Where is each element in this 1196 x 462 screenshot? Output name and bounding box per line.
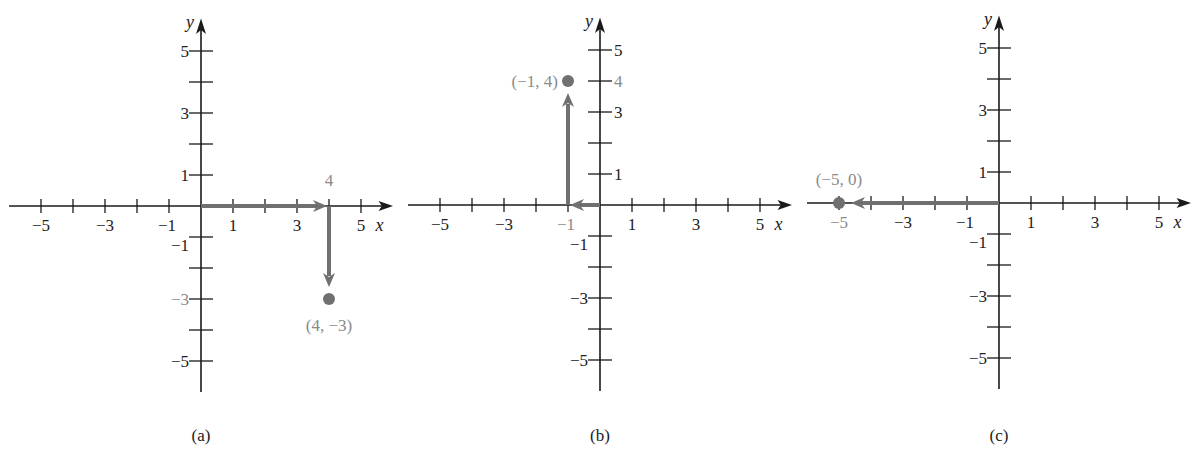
y-tick-label: −3 [171,290,189,309]
point-label: (−1, 4) [512,72,558,91]
x-tick-label: −3 [96,216,114,235]
y-tick-label: 3 [979,101,988,120]
panel-b: −5−3−11355431−1−3−5xy(−1, 4)(b) [408,11,792,445]
x-axis-label: x [374,215,383,235]
x-tick-label: −1 [557,215,575,234]
y-tick-label: −1 [171,236,189,255]
y-tick-label: 5 [181,42,190,61]
y-tick-label: 3 [181,104,190,123]
panel-c: −5−3−1135531−1−3−5xy(−5, 0)(c) [807,9,1191,445]
x-tick-label: 5 [756,215,765,234]
x-tick-label: 5 [1155,213,1164,232]
panel-caption: (a) [192,426,211,445]
x-tick-label: 1 [1027,213,1036,232]
y-tick-label: 5 [979,39,988,58]
plotted-point [833,197,845,209]
x-axis-label: x [773,214,782,234]
x-tick-label: −5 [431,215,449,234]
y-tick-label: 1 [614,165,623,184]
y-tick-label: 3 [614,103,623,122]
x-tick-label: 3 [293,216,302,235]
x-tick-label: 5 [357,216,366,235]
point-label: (−5, 0) [816,170,862,189]
y-axis-label: y [982,9,992,29]
x-tick-label: 1 [628,215,637,234]
point-label: (4, −3) [306,316,352,335]
y-axis-label: y [184,12,194,32]
x-tick-label: −3 [495,215,513,234]
panel-caption: (b) [590,426,610,445]
y-tick-label: −1 [969,233,987,252]
panel-caption: (c) [990,426,1009,445]
y-tick-label: 4 [614,72,623,91]
x-tick-label: 3 [692,215,701,234]
x-tick-label: 1 [229,216,238,235]
y-tick-label: −5 [969,349,987,368]
x-tick-label: −1 [956,213,974,232]
x-tick-label: −5 [32,216,50,235]
y-tick-label: 5 [614,41,623,60]
panel-a: −5−3−1135531−1−3−5xy(4, −3)4(a) [9,12,393,445]
y-axis-label: y [583,11,593,31]
y-tick-label: −3 [570,289,588,308]
x-coordinate-label: 4 [325,171,334,190]
plotted-point [562,75,574,87]
y-tick-label: 1 [979,163,988,182]
y-tick-label: −3 [969,287,987,306]
plotted-point [323,293,335,305]
x-tick-label: −3 [894,213,912,232]
coordinate-figure: −5−3−1135531−1−3−5xy(4, −3)4(a)−5−3−1135… [0,0,1196,462]
x-tick-label: −5 [830,213,848,232]
x-tick-label: −1 [158,216,176,235]
y-tick-label: −5 [171,352,189,371]
y-tick-label: −1 [570,235,588,254]
x-tick-label: 3 [1091,213,1100,232]
x-axis-label: x [1172,212,1181,232]
y-tick-label: −5 [570,351,588,370]
y-tick-label: 1 [181,166,190,185]
